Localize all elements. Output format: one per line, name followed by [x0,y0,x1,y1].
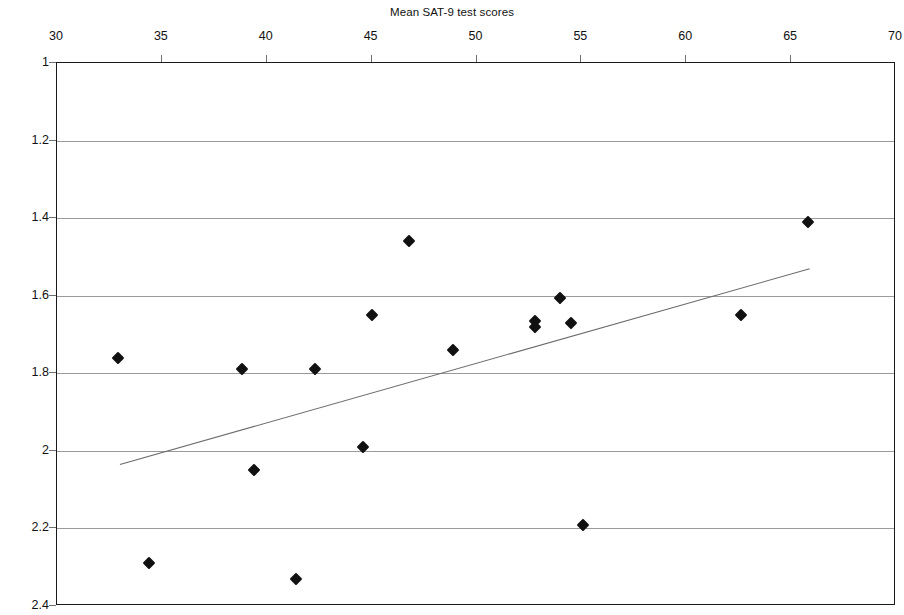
gridline [57,218,894,219]
gridline [57,528,894,529]
data-point [365,309,378,322]
x-axis-tick-label: 35 [154,29,168,43]
trendline-segment [120,269,810,466]
y-axis-tick-mark [49,295,56,296]
data-point [447,344,460,357]
data-point [565,316,578,329]
y-axis-tick-mark [49,140,56,141]
x-axis-tick-label: 40 [259,29,273,43]
gridline [57,373,894,374]
x-axis-tick-mark [790,55,791,62]
y-axis-tick-mark [49,217,56,218]
data-point [734,309,747,322]
x-axis-tick-mark [580,55,581,62]
y-axis-tick-mark [49,527,56,528]
gridline [57,141,894,142]
x-axis-tick-label: 70 [888,29,902,43]
x-axis-tick-mark [266,55,267,62]
x-axis-tick-label: 50 [469,29,483,43]
data-point [290,572,303,585]
y-axis-tick-mark [49,450,56,451]
data-point [554,291,567,304]
gridline [57,296,894,297]
y-axis-tick-mark [49,62,56,63]
x-axis-tick-mark [476,55,477,62]
x-axis-tick-mark [685,55,686,62]
gridline [57,451,894,452]
x-axis-tick-label: 45 [364,29,378,43]
x-axis-tick-label: 55 [573,29,587,43]
data-point [403,235,416,248]
x-axis-tick-mark [371,55,372,62]
y-axis-tick-mark [49,372,56,373]
scatter-chart: Mean SAT-9 test scores 30354045505560657… [0,0,904,615]
chart-title: Mean SAT-9 test scores [0,6,904,18]
plot-area [56,62,895,605]
data-point [143,557,156,570]
x-axis-tick-label: 60 [678,29,692,43]
y-axis-tick-mark [49,605,56,606]
x-axis-tick-label: 65 [783,29,797,43]
x-axis-tick-mark [161,55,162,62]
x-axis-tick-label: 30 [49,29,63,43]
data-point [111,351,124,364]
data-point [248,464,261,477]
